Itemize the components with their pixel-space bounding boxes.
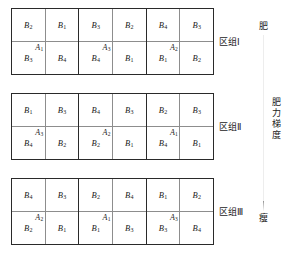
subplot-cell: A3 B3	[147, 212, 180, 244]
sub-column: B1 A3 B3	[147, 179, 181, 244]
subplot-cell: B1	[113, 42, 146, 74]
sub-column: B3 B1	[46, 179, 79, 244]
main-plot-3-2: B2 A1 B1 B4 B3	[79, 179, 146, 244]
main-plot-label: A3	[35, 129, 43, 137]
subplot-cell: B3	[46, 179, 79, 212]
subplot-cell: A1 B4	[147, 127, 180, 159]
subplot-cell: B1	[46, 212, 79, 244]
main-plot-1-3: B4 A2 B1 B3 B2	[147, 9, 213, 74]
main-plot-label: A3	[170, 214, 178, 222]
sub-column: B2 B1	[113, 9, 146, 74]
subplot-cell: B2	[46, 127, 79, 159]
subplot-cell: B2	[113, 9, 146, 42]
main-plot-1-2: B3 A3 B4 B2 B1	[79, 9, 146, 74]
subplot-cell: B2	[12, 9, 45, 42]
sub-column: B1 B4	[46, 9, 79, 74]
subplot-cell: B4	[147, 9, 180, 42]
subplot-cell: B4	[46, 42, 79, 74]
main-plot-2-3: B2 A1 B4 B3 B1	[147, 94, 213, 159]
subplot-cell: B3	[180, 94, 213, 127]
subplot-cell: A3 B4	[12, 127, 45, 159]
sub-column: B2 B4	[180, 179, 213, 244]
gradient-arrow-icon	[263, 35, 264, 211]
gradient-bottom-label: 瘦	[259, 214, 268, 223]
sub-column: B3 B1	[180, 94, 213, 159]
subplot-cell: A2 B2	[79, 127, 112, 159]
block-label-2: 区组Ⅱ	[219, 123, 241, 132]
sub-column: B3 B2	[180, 9, 213, 74]
sub-column: B3 B1	[113, 94, 146, 159]
main-plot-2-2: B4 A2 B2 B3 B1	[79, 94, 146, 159]
subplot-cell: B3	[79, 9, 112, 42]
gradient-caption-char: 梯	[271, 119, 282, 130]
subplot-cell: B3	[113, 94, 146, 127]
main-plot-label: A1	[103, 214, 111, 222]
gradient-caption-char: 度	[271, 130, 282, 141]
sub-column: B4 B3	[113, 179, 146, 244]
gradient-top-label: 肥	[259, 22, 268, 31]
subplot-cell: A2 B2	[12, 212, 45, 244]
main-plot-label: A2	[103, 129, 111, 137]
sub-column: B3 B2	[46, 94, 79, 159]
subplot-cell: A3 B4	[79, 42, 112, 74]
subplot-cell: B2	[147, 94, 180, 127]
sub-column: B1 A3 B4	[12, 94, 46, 159]
subplot-cell: B4	[180, 212, 213, 244]
subplot-cell: B2	[180, 179, 213, 212]
subplot-cell: B3	[180, 9, 213, 42]
subplot-cell: B4	[79, 94, 112, 127]
subplot-cell: B4	[113, 179, 146, 212]
subplot-cell: B1	[180, 127, 213, 159]
gradient-caption-char: 力	[271, 108, 282, 119]
main-plot-3-1: B4 A2 B2 B3 B1	[12, 179, 79, 244]
main-plot-label: A2	[170, 44, 178, 52]
main-plot-label: A1	[170, 129, 178, 137]
subplot-cell: A1 B1	[79, 212, 112, 244]
block-2: B1 A3 B4 B3 B2 B4	[11, 93, 214, 160]
main-plot-label: A2	[35, 214, 43, 222]
subplot-cell: A1 B3	[12, 42, 45, 74]
main-plot-1-1: B2 A1 B3 B1 B4	[12, 9, 79, 74]
gradient-caption-char: 肥	[271, 97, 282, 108]
subplot-cell: B2	[180, 42, 213, 74]
subplot-cell: B2	[79, 179, 112, 212]
sub-column: B2 A1 B3	[12, 9, 46, 74]
block-label-1: 区组Ⅰ	[219, 38, 240, 47]
subplot-cell: B1	[12, 94, 45, 127]
sub-column: B4 A2 B2	[79, 94, 113, 159]
sub-column: B2 A1 B4	[147, 94, 181, 159]
block-label-3: 区组Ⅲ	[219, 208, 243, 217]
subplot-cell: B3	[46, 94, 79, 127]
subplot-cell: B1	[113, 127, 146, 159]
main-plot-3-3: B1 A3 B3 B2 B4	[147, 179, 213, 244]
sub-column: B3 A3 B4	[79, 9, 113, 74]
subplot-cell: B3	[113, 212, 146, 244]
subplot-cell: B1	[147, 179, 180, 212]
split-plot-field-layout-diagram: B2 A1 B3 B1 B4 B3	[0, 0, 285, 255]
subplot-cell: B1	[46, 9, 79, 42]
main-plot-label: A3	[103, 44, 111, 52]
subplot-cell: B4	[12, 179, 45, 212]
sub-column: B4 A2 B1	[147, 9, 181, 74]
block-3: B4 A2 B2 B3 B1 B2	[11, 178, 214, 245]
block-1: B2 A1 B3 B1 B4 B3	[11, 8, 214, 75]
sub-column: B4 A2 B2	[12, 179, 46, 244]
subplot-cell: A2 B1	[147, 42, 180, 74]
gradient-caption: 肥 力 梯 度	[271, 97, 282, 141]
main-plot-label: A1	[35, 44, 43, 52]
sub-column: B2 A1 B1	[79, 179, 113, 244]
main-plot-2-1: B1 A3 B4 B3 B2	[12, 94, 79, 159]
